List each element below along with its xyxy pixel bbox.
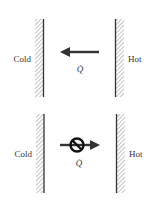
cold-wall-hatch: [36, 114, 44, 193]
hot-wall: [117, 114, 126, 193]
panel-prohibited: Cold Hot Q̇: [14, 114, 143, 193]
cold-wall: [35, 19, 44, 97]
cold-wall: [36, 114, 44, 193]
hot-wall-hatch: [117, 114, 125, 193]
hot-wall: [116, 19, 125, 97]
cold-label: Cold: [13, 54, 31, 64]
heat-flow-diagram: Cold Hot Q̇ Cold Hot Q̇: [0, 0, 160, 202]
cold-wall-hatch: [35, 19, 43, 97]
cold-label: Cold: [14, 149, 32, 159]
hot-label: Hot: [128, 54, 142, 64]
panel-allowed: Cold Hot Q̇: [13, 19, 142, 97]
heat-flow-label: Q̇: [76, 158, 83, 168]
heat-flow-label: Q̇: [77, 64, 84, 74]
hot-wall-hatch: [116, 19, 124, 97]
hot-label: Hot: [129, 149, 143, 159]
heat-flow-arrow-left-icon: [60, 47, 99, 57]
